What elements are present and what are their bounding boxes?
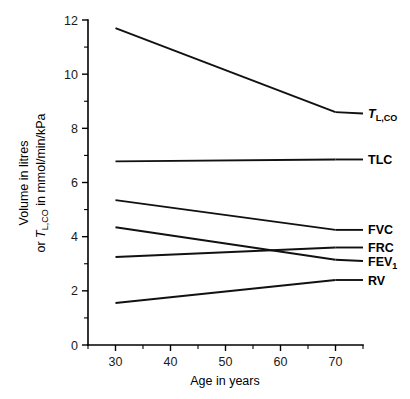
y-tick-label: 12 bbox=[64, 14, 78, 28]
x-axis-title: Age in years bbox=[190, 374, 259, 388]
y-axis-ticks bbox=[82, 20, 88, 345]
series-label-TLC: TLC bbox=[368, 153, 392, 167]
x-axis-tick-labels: 3040506070 bbox=[109, 355, 343, 369]
series-line-FVC bbox=[116, 200, 336, 230]
series-leader-lines bbox=[336, 112, 364, 280]
y-axis-title-line1: Volume in litres bbox=[17, 141, 31, 226]
y-tick-label: 2 bbox=[71, 284, 78, 298]
chart-container: 024681012 3040506070 TL,COTLCFVCFRCFEV1R… bbox=[0, 0, 410, 399]
y-tick-label: 8 bbox=[71, 122, 78, 136]
y-axis-title: Volume in litres or TL,CO in mmol/min/kP… bbox=[17, 113, 50, 252]
x-tick-label: 30 bbox=[109, 355, 123, 369]
x-tick-label: 70 bbox=[329, 355, 343, 369]
y-tick-label: 10 bbox=[64, 68, 78, 82]
x-tick-label: 60 bbox=[274, 355, 288, 369]
line-chart: 024681012 3040506070 TL,COTLCFVCFRCFEV1R… bbox=[0, 0, 410, 399]
y-tick-label: 6 bbox=[71, 176, 78, 190]
series-line-TL,CO bbox=[116, 28, 336, 112]
series-label-FEV1: FEV1 bbox=[368, 255, 397, 271]
y-axis-title-line2: or TL,CO in mmol/min/kPa bbox=[34, 113, 50, 252]
series-line-TLC bbox=[116, 159, 336, 161]
series-leader-FEV1 bbox=[336, 260, 364, 261]
series-line-RV bbox=[116, 280, 336, 303]
series-leader-TL,CO bbox=[336, 112, 364, 113]
y-tick-label: 4 bbox=[71, 230, 78, 244]
series-label-TL,CO: TL,CO bbox=[368, 107, 397, 123]
series-labels: TL,COTLCFVCFRCFEV1RV bbox=[368, 107, 397, 288]
series-label-FVC: FVC bbox=[368, 223, 393, 237]
x-tick-label: 40 bbox=[164, 355, 178, 369]
x-axis-ticks bbox=[88, 345, 363, 351]
x-tick-label: 50 bbox=[219, 355, 233, 369]
y-axis-tick-labels: 024681012 bbox=[64, 14, 78, 353]
series-label-FRC: FRC bbox=[368, 241, 394, 255]
data-series-lines bbox=[116, 28, 336, 303]
y-tick-label: 0 bbox=[71, 339, 78, 353]
series-label-RV: RV bbox=[368, 274, 386, 288]
